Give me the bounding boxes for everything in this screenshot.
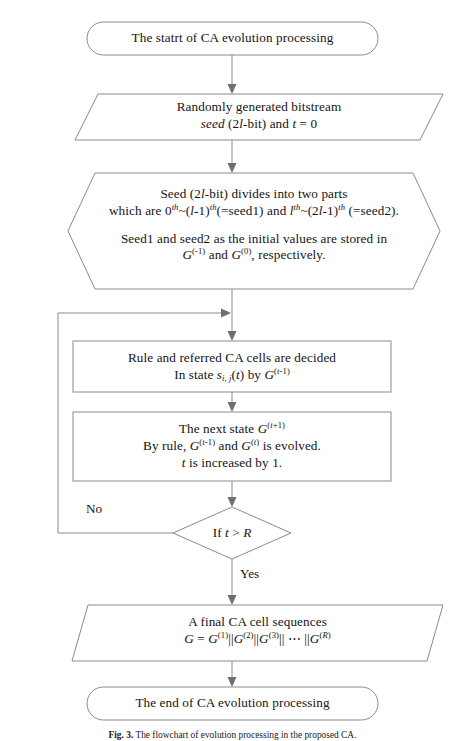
connector-nextstate-to-decision xyxy=(228,481,237,507)
connector-random-to-seedsplit xyxy=(228,140,237,173)
node-random-seed-shape xyxy=(75,94,443,140)
figure-caption-label: Fig. 3. xyxy=(109,730,134,740)
node-decision-shape xyxy=(173,507,291,559)
connector-final-to-end xyxy=(228,661,237,687)
decision-label-yes: Yes xyxy=(240,566,259,582)
connector-rule-to-nextstate xyxy=(228,392,237,412)
figure-caption-text: The flowchart of evolution processing in… xyxy=(135,730,356,740)
node-final-sequence-shape xyxy=(72,605,443,661)
figure-caption: Fig. 3. The flowchart of evolution proce… xyxy=(0,730,465,741)
node-rule-shape xyxy=(73,341,391,392)
node-next-state-shape xyxy=(73,412,391,481)
connector-yes-to-final xyxy=(228,559,237,605)
decision-label-no: No xyxy=(86,501,102,517)
node-seed-split-shape xyxy=(68,173,440,289)
connector-start-to-random xyxy=(228,55,237,94)
connector-seedsplit-to-rule xyxy=(228,289,237,341)
node-end-shape xyxy=(87,687,378,720)
node-start-shape xyxy=(87,22,378,55)
